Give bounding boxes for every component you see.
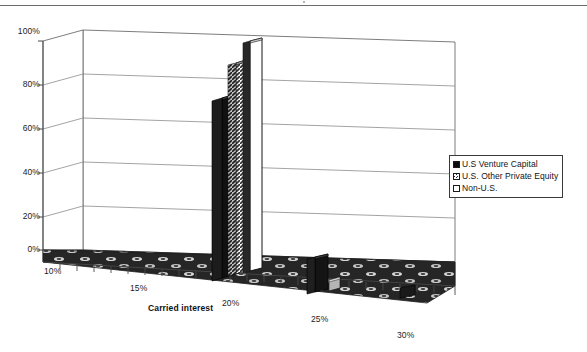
bar-series1-25pct — [307, 254, 328, 294]
legend-item-non-us[interactable]: Non-U.S. — [453, 183, 558, 194]
y-axis-wall — [43, 30, 83, 250]
legend-swatch-icon-series2 — [453, 173, 460, 180]
x-tick-label-25: 25% — [311, 314, 328, 324]
y-tick-label-80: 80% — [10, 79, 40, 89]
y-tick-label-100: 100% — [10, 26, 40, 36]
x-axis-title: Carried interest — [148, 303, 213, 313]
legend-label-series1: U.S Venture Capital — [462, 160, 538, 169]
legend-swatch-icon-series1 — [453, 161, 460, 168]
back-wall — [83, 30, 455, 262]
y-tick-label-60: 60% — [10, 123, 40, 133]
legend-item-us-other-private-equity[interactable]: U.S. Other Private Equity — [453, 171, 558, 182]
x-tick-label-10: 10% — [44, 266, 61, 276]
y-tick-label-0: 0% — [10, 244, 40, 254]
legend-label-series2: U.S. Other Private Equity — [462, 172, 558, 181]
y-tick-label-40: 40% — [10, 167, 40, 177]
bar-chart-3d: 100% 80% 60% 40% 20% 0% 10% 15% 20% 25% … — [0, 0, 587, 352]
bar-series3-20pct — [243, 38, 262, 273]
x-tick-label-20: 20% — [222, 298, 239, 308]
chart-legend: U.S Venture Capital U.S. Other Private E… — [449, 155, 563, 198]
legend-swatch-icon-series3 — [453, 185, 460, 192]
x-tick-label-30: 30% — [397, 330, 414, 340]
legend-item-us-venture-capital[interactable]: U.S Venture Capital — [453, 159, 558, 170]
legend-label-series3: Non-U.S. — [462, 184, 497, 193]
y-tick-label-20: 20% — [10, 211, 40, 221]
x-tick-label-15: 15% — [130, 283, 147, 293]
